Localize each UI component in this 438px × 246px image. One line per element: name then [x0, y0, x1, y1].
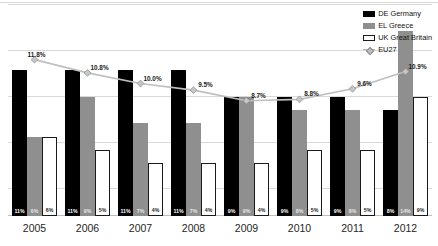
legend-swatch-de-icon [363, 11, 375, 17]
bar-value-label: 5% [99, 207, 107, 213]
bar-group-2010: 9%8%5% [273, 4, 326, 216]
bar-de-2011[interactable]: 9% [330, 97, 345, 216]
bar-value-label: 6% [31, 208, 39, 214]
bar-uk-2007[interactable]: 4% [148, 163, 163, 216]
bar-el-2009[interactable]: 9% [239, 97, 254, 216]
bar-group-2009: 9%9%4% [220, 4, 273, 216]
eu27-point-label-2008: 9.5% [198, 81, 213, 88]
bar-value-label: 5% [311, 207, 319, 213]
bar-value-label: 5% [364, 207, 372, 213]
bar-value-label: 11% [173, 208, 183, 214]
x-tick-2009: 2009 [220, 218, 273, 240]
bar-value-label: 9% [417, 207, 425, 213]
eu27-point-label-2011: 9.6% [357, 80, 372, 87]
eu27-point-label-2005: 11.8% [28, 51, 46, 58]
bar-el-2008[interactable]: 7% [186, 123, 201, 216]
x-tick-2012: 2012 [379, 218, 432, 240]
legend-label-eu27: EU27 [378, 45, 397, 54]
bar-de-2010[interactable]: 9% [277, 97, 292, 216]
bar-de-2007[interactable]: 11% [118, 70, 133, 216]
bar-value-label: 4% [152, 207, 160, 213]
bar-value-label: 4% [258, 207, 266, 213]
x-tick-2010: 2010 [273, 218, 326, 240]
bar-uk-2009[interactable]: 4% [254, 163, 269, 216]
bar-group-2005: 11%6%6% [8, 4, 61, 216]
chart-legend: DE Germany EL Greece UK Great Britain EU… [363, 8, 432, 55]
x-axis-ticks: 20052006200720082009201020112012 [8, 218, 432, 240]
bar-el-2011[interactable]: 8% [345, 110, 360, 216]
bar-el-2006[interactable]: 9% [80, 97, 95, 216]
bar-uk-2012[interactable]: 9% [413, 97, 428, 216]
x-tick-2006: 2006 [61, 218, 114, 240]
bar-el-2012[interactable]: 14% [398, 31, 413, 217]
bar-group-2007: 11%7%4% [114, 4, 167, 216]
bar-el-2005[interactable]: 6% [27, 137, 42, 217]
eu27-point-label-2012: 10.9% [408, 63, 426, 70]
legend-item-de-germany[interactable]: DE Germany [363, 8, 432, 19]
bar-value-label: 7% [137, 208, 145, 214]
legend-item-uk-great-britain[interactable]: UK Great Britain [363, 32, 432, 43]
bar-value-label: 14% [400, 208, 410, 214]
bar-el-2010[interactable]: 8% [292, 110, 307, 216]
legend-swatch-uk-icon [363, 35, 375, 41]
bar-el-2007[interactable]: 7% [133, 123, 148, 216]
bar-value-label: 4% [205, 207, 213, 213]
bar-value-label: 8% [296, 208, 304, 214]
bar-value-label: 9% [334, 208, 342, 214]
legend-swatch-el-icon [363, 23, 375, 29]
bar-uk-2011[interactable]: 5% [360, 150, 375, 216]
bar-de-2009[interactable]: 9% [224, 97, 239, 216]
bar-de-2005[interactable]: 11% [12, 70, 27, 216]
legend-label-uk: UK Great Britain [378, 33, 432, 42]
x-tick-2005: 2005 [8, 218, 61, 240]
legend-item-eu27[interactable]: EU27 [363, 44, 432, 55]
legend-swatch-eu27-line-icon [363, 46, 375, 53]
legend-label-de: DE Germany [378, 9, 421, 18]
x-tick-2008: 2008 [167, 218, 220, 240]
legend-label-el: EL Greece [378, 21, 413, 30]
bar-uk-2008[interactable]: 4% [201, 163, 216, 216]
bar-de-2006[interactable]: 11% [65, 70, 80, 216]
bar-value-label: 11% [120, 208, 130, 214]
eu27-point-label-2006: 10.8% [90, 64, 108, 71]
bar-value-label: 11% [14, 208, 24, 214]
bar-value-label: 6% [46, 207, 54, 213]
bar-value-label: 8% [349, 208, 357, 214]
bar-uk-2010[interactable]: 5% [307, 150, 322, 216]
eu27-point-label-2007: 10.0% [143, 75, 161, 82]
x-tick-2007: 2007 [114, 218, 167, 240]
bar-value-label: 11% [67, 208, 77, 214]
bar-value-label: 9% [84, 208, 92, 214]
bar-uk-2006[interactable]: 5% [95, 150, 110, 216]
bar-value-label: 9% [243, 208, 251, 214]
bar-de-2012[interactable]: 8% [383, 110, 398, 216]
bar-value-label: 9% [281, 208, 289, 214]
bar-value-label: 7% [190, 208, 198, 214]
bar-uk-2005[interactable]: 6% [42, 137, 57, 217]
eu27-point-label-2009: 8.7% [251, 92, 266, 99]
legend-item-el-greece[interactable]: EL Greece [363, 20, 432, 31]
eu27-point-label-2010: 8.8% [304, 90, 319, 97]
bar-value-label: 8% [387, 208, 395, 214]
bar-group-2008: 11%7%4% [167, 4, 220, 216]
top-border-line [0, 2, 438, 3]
bar-value-label: 9% [228, 208, 236, 214]
chart-container: DE Germany EL Greece UK Great Britain EU… [0, 0, 438, 246]
x-tick-2011: 2011 [326, 218, 379, 240]
bar-group-2006: 11%9%5% [61, 4, 114, 216]
bar-de-2008[interactable]: 11% [171, 70, 186, 216]
